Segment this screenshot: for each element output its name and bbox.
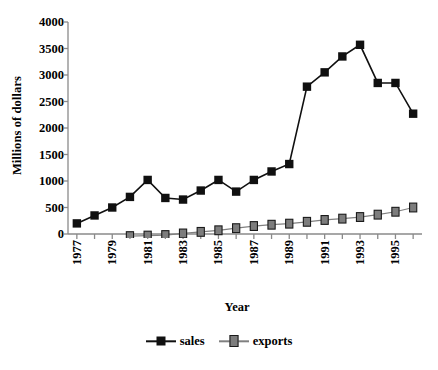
x-axis-title: Year xyxy=(0,300,438,315)
x-axis-tick-label: 1987 xyxy=(247,240,261,290)
data-point-exports xyxy=(268,220,275,229)
data-point-exports xyxy=(215,226,222,235)
data-point-sales xyxy=(338,52,346,60)
legend-entry-exports[interactable]: exports xyxy=(219,335,293,348)
data-point-sales xyxy=(232,187,240,195)
legend-marker-exports xyxy=(229,335,238,347)
y-axis-tick-label: 2500 xyxy=(22,95,64,108)
data-point-sales xyxy=(285,160,293,168)
data-point-exports xyxy=(339,214,346,223)
x-axis-tick-label: 1989 xyxy=(282,240,296,290)
data-point-sales xyxy=(161,194,169,202)
x-axis-tick-label: 1985 xyxy=(211,240,225,290)
x-axis-tick-label: 1993 xyxy=(353,240,367,290)
data-point-sales xyxy=(143,176,151,184)
data-point-sales xyxy=(320,68,328,76)
data-point-sales xyxy=(73,219,81,227)
plot-svg xyxy=(68,22,422,234)
data-point-sales xyxy=(267,167,275,175)
x-axis-tick-labels: 1977197919811983198519871989199119931995 xyxy=(68,240,422,298)
data-point-sales xyxy=(108,203,116,211)
y-axis-tick-label: 3500 xyxy=(22,42,64,55)
x-axis-tick-label-text: 1993 xyxy=(354,240,367,265)
y-axis-tick-label: 1000 xyxy=(22,175,64,188)
legend-marker-sales xyxy=(156,337,165,346)
legend-label-sales: sales xyxy=(180,335,205,348)
x-axis-tick-label: 1981 xyxy=(141,240,155,290)
data-point-exports xyxy=(303,217,310,226)
data-point-exports xyxy=(233,224,240,233)
x-axis-tick-label: 1983 xyxy=(176,240,190,290)
data-point-exports xyxy=(179,229,186,238)
data-point-exports xyxy=(250,222,257,231)
data-point-exports xyxy=(410,203,417,212)
y-axis-tick-label: 2000 xyxy=(22,122,64,135)
x-axis-tick-label-text: 1977 xyxy=(71,240,84,265)
data-point-exports xyxy=(321,216,328,225)
x-axis-tick-label: 1995 xyxy=(388,240,402,290)
data-point-sales xyxy=(303,82,311,90)
y-axis-tick-label: 1500 xyxy=(22,148,64,161)
x-axis-tick-label-text: 1991 xyxy=(318,240,331,265)
x-axis-tick-label: 1977 xyxy=(70,240,84,290)
data-point-sales xyxy=(214,176,222,184)
data-point-sales xyxy=(179,195,187,203)
x-axis-tick-label-text: 1979 xyxy=(106,240,119,265)
x-axis-tick-label-text: 1983 xyxy=(177,240,190,265)
x-axis-tick-label: 1979 xyxy=(105,240,119,290)
legend-swatch-sales xyxy=(146,335,176,347)
chart-legend: salesexports xyxy=(0,335,438,348)
data-point-sales xyxy=(356,41,364,49)
data-point-sales xyxy=(197,186,205,194)
x-axis-title-text: Year xyxy=(225,300,250,314)
series-sales xyxy=(73,41,418,228)
y-axis-tick-label: 3000 xyxy=(22,69,64,82)
y-axis-tick-label: 0 xyxy=(22,228,64,241)
y-axis-tick-label: 4000 xyxy=(22,16,64,29)
x-axis-tick-label-text: 1981 xyxy=(141,240,154,265)
legend-swatch-exports xyxy=(219,335,249,347)
data-point-sales xyxy=(374,79,382,87)
x-axis-tick-label-text: 1987 xyxy=(248,240,261,265)
data-point-exports xyxy=(392,207,399,216)
data-point-exports xyxy=(374,210,381,219)
data-point-sales xyxy=(391,79,399,87)
data-point-sales xyxy=(409,109,417,117)
legend-label-exports: exports xyxy=(253,335,293,348)
x-axis-tick-label-text: 1995 xyxy=(389,240,402,265)
chart-container: Millions of dollars 05001000150020002500… xyxy=(0,0,438,370)
data-point-exports xyxy=(197,227,204,236)
series-group xyxy=(73,41,418,241)
data-point-sales xyxy=(90,211,98,219)
x-axis-tick-label-text: 1989 xyxy=(283,240,296,265)
x-axis-tick-label-text: 1985 xyxy=(212,240,225,265)
plot-area xyxy=(68,22,422,234)
data-point-sales xyxy=(126,193,134,201)
data-point-exports xyxy=(356,213,363,222)
data-point-exports xyxy=(286,219,293,228)
legend-entry-sales[interactable]: sales xyxy=(146,335,205,348)
x-axis-tick-label: 1991 xyxy=(318,240,332,290)
data-point-sales xyxy=(250,176,258,184)
y-axis-tick-label: 500 xyxy=(22,201,64,214)
